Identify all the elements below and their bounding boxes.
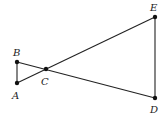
points [15, 15, 157, 100]
label-D: D [149, 104, 158, 115]
label-E: E [149, 2, 158, 13]
point-C [44, 67, 48, 71]
label-B: B [12, 47, 20, 58]
point-E [153, 15, 157, 19]
segment-AE [17, 17, 155, 83]
label-C: C [41, 76, 49, 87]
point-D [153, 96, 157, 100]
segments [17, 17, 155, 98]
point-A [15, 81, 19, 85]
point-B [15, 60, 19, 64]
labels: A B C D E [11, 2, 158, 115]
segment-BD [17, 62, 155, 98]
diagram-canvas: A B C D E [0, 0, 164, 123]
label-A: A [11, 90, 19, 101]
